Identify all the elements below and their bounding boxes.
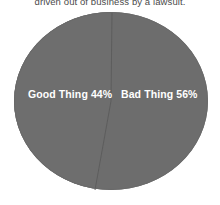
pie-label-bad-thing: Bad Thing 56% bbox=[121, 88, 198, 100]
pie-chart-svg bbox=[14, 12, 208, 190]
pie-chart bbox=[14, 12, 208, 190]
pie-slice-good-thing[interactable] bbox=[14, 12, 112, 190]
pie-label-good-thing: Good Thing 44% bbox=[28, 88, 112, 100]
chart-title: driven out of business by a lawsuit. bbox=[0, 0, 220, 7]
chart-canvas: driven out of business by a lawsuit. Goo… bbox=[0, 0, 220, 205]
